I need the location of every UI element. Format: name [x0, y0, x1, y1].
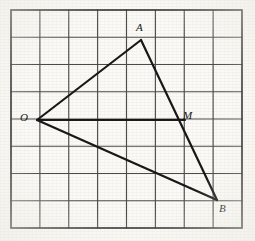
label-B: B	[219, 203, 226, 214]
figure-canvas	[0, 0, 255, 241]
label-A: A	[136, 22, 143, 33]
label-O: O	[20, 112, 28, 123]
triangle-side-oa	[37, 40, 141, 120]
geometry-figure: A O M B	[0, 0, 255, 241]
label-M: M	[183, 110, 192, 121]
